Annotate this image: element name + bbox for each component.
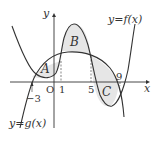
origin-label: O bbox=[46, 84, 54, 95]
region-b-label: B bbox=[69, 35, 79, 49]
graph: y x O 1 5 9 −3 y=f(x) y=g(x) A B C bbox=[0, 0, 161, 142]
f-label: y=f(x) bbox=[107, 13, 142, 26]
x-axis-label: x bbox=[144, 82, 151, 95]
tick-5: 5 bbox=[88, 84, 94, 95]
region-a-label: A bbox=[40, 62, 50, 76]
tick-1: 1 bbox=[59, 84, 65, 95]
y-axis-label: y bbox=[42, 7, 50, 20]
y-axis-arrow-icon bbox=[52, 13, 56, 17]
region-c-label: C bbox=[102, 85, 111, 99]
tick-9: 9 bbox=[116, 71, 122, 82]
tick-neg3: −3 bbox=[26, 93, 41, 104]
g-label: y=g(x) bbox=[8, 117, 46, 130]
